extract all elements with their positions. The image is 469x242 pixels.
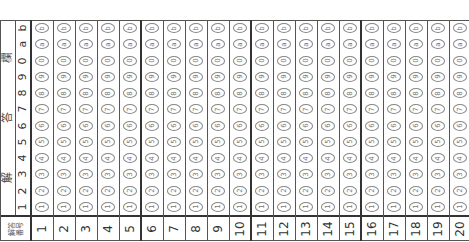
answer-bubble[interactable]: a	[431, 39, 445, 49]
answer-bubble[interactable]: 6	[321, 121, 335, 131]
answer-bubble[interactable]: 6	[35, 121, 49, 131]
answer-bubble[interactable]: 0	[211, 56, 225, 66]
answer-bubble[interactable]: 4	[35, 153, 49, 163]
answer-bubble[interactable]: 2	[123, 186, 137, 196]
answer-bubble[interactable]: 9	[123, 72, 137, 82]
answer-bubble[interactable]: a	[123, 39, 137, 49]
answer-bubble[interactable]: 6	[299, 121, 313, 131]
answer-bubble[interactable]: 5	[365, 137, 379, 147]
answer-bubble[interactable]: 6	[189, 121, 203, 131]
answer-bubble[interactable]: 5	[387, 137, 401, 147]
answer-bubble[interactable]: 5	[255, 137, 269, 147]
answer-bubble[interactable]: 9	[321, 72, 335, 82]
answer-bubble[interactable]: b	[211, 23, 225, 33]
answer-bubble[interactable]: 4	[453, 153, 467, 163]
answer-bubble[interactable]: 8	[145, 88, 159, 98]
answer-bubble[interactable]: 5	[233, 137, 247, 147]
answer-bubble[interactable]: 6	[145, 121, 159, 131]
answer-bubble[interactable]: 7	[343, 104, 357, 114]
answer-bubble[interactable]: 4	[277, 153, 291, 163]
answer-bubble[interactable]: b	[453, 23, 467, 33]
answer-bubble[interactable]: 3	[299, 169, 313, 179]
answer-bubble[interactable]: 7	[101, 104, 115, 114]
answer-bubble[interactable]: a	[277, 39, 291, 49]
answer-bubble[interactable]: 3	[365, 169, 379, 179]
answer-bubble[interactable]: 2	[343, 186, 357, 196]
answer-bubble[interactable]: a	[409, 39, 423, 49]
answer-bubble[interactable]: 7	[35, 104, 49, 114]
answer-bubble[interactable]: 5	[277, 137, 291, 147]
answer-bubble[interactable]: 2	[211, 186, 225, 196]
answer-bubble[interactable]: 8	[255, 88, 269, 98]
answer-bubble[interactable]: a	[321, 39, 335, 49]
answer-bubble[interactable]: 1	[211, 202, 225, 212]
answer-bubble[interactable]: 7	[189, 104, 203, 114]
answer-bubble[interactable]: 4	[299, 153, 313, 163]
answer-bubble[interactable]: 3	[123, 169, 137, 179]
answer-bubble[interactable]: 1	[79, 202, 93, 212]
answer-bubble[interactable]: 8	[453, 88, 467, 98]
answer-bubble[interactable]: 9	[431, 72, 445, 82]
answer-bubble[interactable]: 2	[255, 186, 269, 196]
answer-bubble[interactable]: 3	[79, 169, 93, 179]
answer-bubble[interactable]: 5	[145, 137, 159, 147]
answer-bubble[interactable]: 3	[321, 169, 335, 179]
answer-bubble[interactable]: 0	[189, 56, 203, 66]
answer-bubble[interactable]: 7	[453, 104, 467, 114]
answer-bubble[interactable]: 7	[211, 104, 225, 114]
answer-bubble[interactable]: 2	[57, 186, 71, 196]
answer-bubble[interactable]: 0	[123, 56, 137, 66]
answer-bubble[interactable]: 9	[167, 72, 181, 82]
answer-bubble[interactable]: 6	[431, 121, 445, 131]
answer-bubble[interactable]: 7	[277, 104, 291, 114]
answer-bubble[interactable]: 0	[35, 56, 49, 66]
answer-bubble[interactable]: 7	[123, 104, 137, 114]
answer-bubble[interactable]: 5	[79, 137, 93, 147]
answer-bubble[interactable]: b	[365, 23, 379, 33]
answer-bubble[interactable]: 4	[167, 153, 181, 163]
answer-bubble[interactable]: 0	[409, 56, 423, 66]
answer-bubble[interactable]: 6	[79, 121, 93, 131]
answer-bubble[interactable]: 5	[189, 137, 203, 147]
answer-bubble[interactable]: 0	[431, 56, 445, 66]
answer-bubble[interactable]: 9	[299, 72, 313, 82]
answer-bubble[interactable]: a	[211, 39, 225, 49]
answer-bubble[interactable]: b	[387, 23, 401, 33]
answer-bubble[interactable]: 7	[431, 104, 445, 114]
answer-bubble[interactable]: 3	[233, 169, 247, 179]
answer-bubble[interactable]: 1	[277, 202, 291, 212]
answer-bubble[interactable]: 6	[167, 121, 181, 131]
answer-bubble[interactable]: 8	[365, 88, 379, 98]
answer-bubble[interactable]: a	[189, 39, 203, 49]
answer-bubble[interactable]: 2	[387, 186, 401, 196]
answer-bubble[interactable]: 7	[409, 104, 423, 114]
answer-bubble[interactable]: b	[233, 23, 247, 33]
answer-bubble[interactable]: 3	[343, 169, 357, 179]
answer-bubble[interactable]: a	[343, 39, 357, 49]
answer-bubble[interactable]: 1	[57, 202, 71, 212]
answer-bubble[interactable]: 0	[79, 56, 93, 66]
answer-bubble[interactable]: 8	[431, 88, 445, 98]
answer-bubble[interactable]: 2	[167, 186, 181, 196]
answer-bubble[interactable]: b	[299, 23, 313, 33]
answer-bubble[interactable]: b	[409, 23, 423, 33]
answer-bubble[interactable]: 8	[277, 88, 291, 98]
answer-bubble[interactable]: a	[145, 39, 159, 49]
answer-bubble[interactable]: 5	[167, 137, 181, 147]
answer-bubble[interactable]: 5	[211, 137, 225, 147]
answer-bubble[interactable]: 6	[211, 121, 225, 131]
answer-bubble[interactable]: 0	[167, 56, 181, 66]
answer-bubble[interactable]: 3	[189, 169, 203, 179]
answer-bubble[interactable]: 8	[35, 88, 49, 98]
answer-bubble[interactable]: b	[189, 23, 203, 33]
answer-bubble[interactable]: 9	[277, 72, 291, 82]
answer-bubble[interactable]: 2	[431, 186, 445, 196]
answer-bubble[interactable]: 2	[233, 186, 247, 196]
answer-bubble[interactable]: 4	[79, 153, 93, 163]
answer-bubble[interactable]: 2	[35, 186, 49, 196]
answer-bubble[interactable]: a	[57, 39, 71, 49]
answer-bubble[interactable]: 8	[387, 88, 401, 98]
answer-bubble[interactable]: 9	[101, 72, 115, 82]
answer-bubble[interactable]: 8	[123, 88, 137, 98]
answer-bubble[interactable]: 5	[409, 137, 423, 147]
